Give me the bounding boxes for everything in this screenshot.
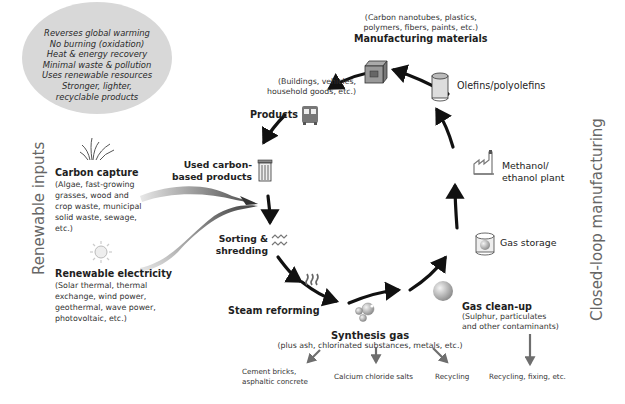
renewable-electricity-title: Renewable electricity xyxy=(55,268,172,279)
sphere-icon xyxy=(433,281,453,301)
carbon-capture-title: Carbon capture xyxy=(55,167,142,178)
steam-reforming-title: Steam reforming xyxy=(228,305,320,316)
node-manufacturing-materials: (Carbon nanotubes, plastics, polymers, f… xyxy=(354,13,488,44)
synthesis-gas-detail: (plus ash, chlorinated substances, metal… xyxy=(250,341,490,351)
renewable-electricity: Renewable electricity (Solar thermal, th… xyxy=(55,268,172,324)
methanol-plant-title: Methanol/ xyxy=(502,160,564,172)
used-products-title: Used carbon- xyxy=(170,159,252,171)
products-detail: household goods, etc.) xyxy=(228,87,356,97)
manufacturing-materials-detail: polymers, fibers, paints, etc.) xyxy=(354,23,488,33)
carbon-capture-detail: crop waste, municipal xyxy=(55,201,142,212)
output-recycling-fixing: Recycling, fixing, etc. xyxy=(489,372,566,382)
renewable-electricity-detail: geothermal, wave power, xyxy=(55,302,172,313)
carbon-capture-detail: (Algae, fast-growing xyxy=(55,179,142,190)
input-swoosh-arrows xyxy=(140,186,258,272)
output-recycling: Recycling xyxy=(435,372,469,382)
factory-icon xyxy=(474,150,494,174)
zigzag-icon xyxy=(272,235,287,245)
cylinder-icon xyxy=(432,73,448,101)
output-cement: Cement bricks, asphaltic concrete xyxy=(242,367,308,386)
trash-bin-icon xyxy=(258,160,272,181)
carbon-capture-detail: grasses, wood and xyxy=(55,190,142,201)
node-gas-cleanup: Gas clean-up (Sulphur, particulates and … xyxy=(462,301,559,332)
cycle-arrows xyxy=(264,70,457,303)
side-label-right: Closed-loop manufacturing xyxy=(588,118,606,321)
gas-cleanup-title: Gas clean-up xyxy=(462,301,559,312)
synthesis-gas-title: Synthesis gas xyxy=(250,330,490,341)
carbon-capture: Carbon capture (Algae, fast-growing gras… xyxy=(55,167,142,234)
gas-bubbles-icon xyxy=(356,303,375,322)
output-cement-line: Cement bricks, xyxy=(242,367,308,377)
output-calcium: Calcium chloride salts xyxy=(334,372,413,382)
node-used-products: Used carbon- based products xyxy=(170,159,252,183)
sorting-title: Sorting & xyxy=(200,233,268,245)
side-label-left: Renewable inputs xyxy=(30,142,48,275)
carbon-capture-detail: etc.) xyxy=(55,223,142,234)
sun-icon xyxy=(90,241,112,263)
box-icon xyxy=(365,61,387,83)
renewable-electricity-detail: photovoltaic, etc.) xyxy=(55,313,172,324)
gas-cleanup-detail: (Sulphur, particulates xyxy=(462,312,559,322)
methanol-plant-title: ethanol plant xyxy=(502,172,564,184)
manufacturing-materials-detail: (Carbon nanotubes, plastics, xyxy=(354,13,488,23)
bus-icon xyxy=(302,106,318,125)
node-methanol-plant: Methanol/ ethanol plant xyxy=(502,160,564,184)
used-products-title: based products xyxy=(170,171,252,183)
sorting-title: shredding xyxy=(200,245,268,257)
olefins-title: Olefins/polyolefins xyxy=(457,80,545,91)
renewable-electricity-detail: exchange, wind power, xyxy=(55,291,172,302)
manufacturing-materials-title: Manufacturing materials xyxy=(354,33,488,44)
grass-icon xyxy=(80,138,114,160)
node-sorting: Sorting & shredding xyxy=(200,233,268,256)
node-synthesis-gas: Synthesis gas (plus ash, chlorinated sub… xyxy=(250,330,490,351)
tank-icon xyxy=(476,233,494,255)
carbon-capture-detail: solid waste, sewage, xyxy=(55,212,142,223)
renewable-electricity-detail: (Solar thermal, thermal xyxy=(55,280,172,291)
products-title: Products xyxy=(250,109,298,120)
node-products-detail: (Buildings, vehicles, household goods, e… xyxy=(228,77,356,97)
gas-storage-title: Gas storage xyxy=(500,237,557,248)
products-detail: (Buildings, vehicles, xyxy=(228,77,356,87)
output-cement-line: asphaltic concrete xyxy=(242,377,308,387)
steam-icon xyxy=(306,274,318,285)
